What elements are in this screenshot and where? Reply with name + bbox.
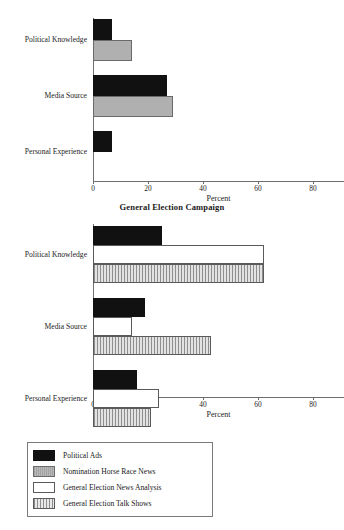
legend-label: Nomination Horse Race News xyxy=(55,467,156,476)
bar xyxy=(93,408,151,427)
bar xyxy=(93,317,132,336)
bar xyxy=(93,131,112,152)
x-tick-label-nomination: 0 xyxy=(91,184,95,193)
legend-item: General Election News Analysis xyxy=(28,479,212,495)
legend-swatch xyxy=(33,466,55,477)
bar xyxy=(93,40,132,61)
bar xyxy=(93,264,264,283)
bar-group: Personal Experience xyxy=(93,131,344,173)
category-label: Personal Experience xyxy=(25,147,93,156)
general-election-campaign-title: General Election Campaign xyxy=(0,202,344,212)
bar xyxy=(93,19,112,40)
bar xyxy=(93,245,264,264)
bar-group: Political Knowledge xyxy=(93,226,344,283)
x-tick-label-nomination: 20 xyxy=(144,184,151,193)
legend-swatch xyxy=(33,482,55,493)
legend-item: General Election Talk Shows xyxy=(28,495,212,511)
category-label: Political Knowledge xyxy=(25,35,93,44)
chart-general-election-campaign: General Election Campaign 020406080 Perc… xyxy=(0,202,344,420)
legend-label: General Election Talk Shows xyxy=(55,499,152,508)
legend-item: Nomination Horse Race News xyxy=(28,463,212,479)
bar xyxy=(93,336,211,355)
bar-group: Media Source xyxy=(93,75,344,117)
legend-label: General Election News Analysis xyxy=(55,483,161,492)
legend-label: Political Ads xyxy=(55,451,102,460)
bar xyxy=(93,226,162,245)
bar xyxy=(93,96,173,117)
bar xyxy=(93,370,137,389)
x-tick-label-nomination: 60 xyxy=(254,184,261,193)
plot-area-nomination: 020406080 Percent Political KnowledgeMed… xyxy=(0,0,344,200)
x-axis-line-nomination xyxy=(93,181,344,182)
category-label: Political Knowledge xyxy=(25,250,93,259)
category-label: Personal Experience xyxy=(25,394,93,403)
bar-group: Media Source xyxy=(93,298,344,355)
chart-nomination-campaign: 020406080 Percent Political KnowledgeMed… xyxy=(0,0,344,200)
legend-item: Political Ads xyxy=(28,447,212,463)
bar-group: Political Knowledge xyxy=(93,19,344,61)
plot-area-general: 020406080 Percent Political KnowledgeMed… xyxy=(0,220,344,420)
bar xyxy=(93,389,159,408)
legend-swatch xyxy=(33,498,55,509)
bar xyxy=(93,75,167,96)
legend: Political AdsNomination Horse Race NewsG… xyxy=(27,442,213,517)
category-label: Media Source xyxy=(45,322,93,331)
x-tick-label-nomination: 80 xyxy=(309,184,316,193)
bar xyxy=(93,298,145,317)
x-tick-label-nomination: 40 xyxy=(199,184,206,193)
legend-swatch xyxy=(33,450,55,461)
bar-group: Personal Experience xyxy=(93,370,344,427)
category-label: Media Source xyxy=(45,91,93,100)
